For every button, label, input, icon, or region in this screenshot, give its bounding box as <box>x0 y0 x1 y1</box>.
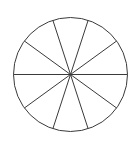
pie-sector <box>24 75 70 129</box>
pie-sector <box>71 41 128 75</box>
figure-canvas <box>0 0 140 147</box>
pie-sector <box>14 75 71 109</box>
pie-sector <box>24 20 70 74</box>
divider-line-group <box>14 20 128 128</box>
pie-sector <box>71 20 117 74</box>
circle-sector-diagram <box>0 0 140 147</box>
pie-sector <box>14 41 71 75</box>
pie-sector <box>71 75 117 129</box>
pie-sector <box>71 75 128 109</box>
